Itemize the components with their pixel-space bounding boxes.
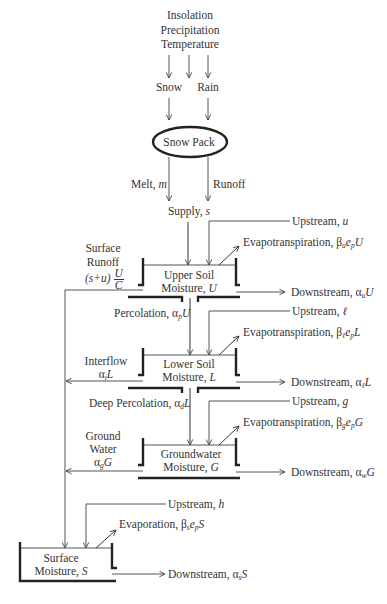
rain-label: Rain	[197, 81, 219, 94]
ground-water-line1: Ground	[85, 430, 120, 443]
percolation-label: Percolation, αpU	[114, 307, 190, 320]
upstream-h-label: Upstream, h	[168, 498, 224, 511]
surface-runoff-line1: Surface	[85, 242, 120, 255]
downstream-u-label: Downstream, αuU	[291, 286, 374, 299]
input-precipitation: Precipitation	[161, 24, 220, 37]
upstream-u-label: Upstream, u	[292, 215, 348, 228]
runoff-label: Runoff	[213, 178, 245, 191]
evapotranspiration-g-label: Evapotranspiration, βgepG	[243, 416, 363, 429]
upstream-g-label: Upstream, g	[292, 395, 348, 408]
lower-soil-line2: Moisture, L	[162, 371, 216, 384]
flow-diagram-lines	[0, 0, 387, 604]
ground-water-line2: Water	[89, 443, 116, 456]
evaporation-s-label: Evaporation, βsepS	[119, 518, 204, 531]
interflow-coeff: αiL	[99, 368, 114, 381]
evapotranspiration-l-label: Evapotranspiration, βℓepL	[243, 326, 361, 339]
ground-water-coeff: αgG	[94, 456, 112, 469]
upper-soil-line2: Moisture, U	[161, 282, 217, 295]
upstream-l-label: Upstream, ℓ	[292, 305, 347, 318]
lower-soil-line1: Lower Soil	[163, 358, 214, 371]
groundwater-line1: Groundwater	[161, 448, 222, 461]
melt-label: Melt, m	[131, 178, 167, 191]
snow-pack-label: Snow Pack	[163, 136, 214, 149]
evapotranspiration-u-label: Evapotranspiration, βuepU	[243, 236, 363, 249]
upper-soil-line1: Upper Soil	[164, 269, 214, 282]
interflow-line1: Interflow	[85, 355, 128, 368]
deep-percolation-label: Deep Percolation, αdL	[89, 397, 190, 410]
input-temperature: Temperature	[161, 38, 219, 51]
surface-runoff-expr: (s+u) UC	[85, 268, 124, 291]
supply-label: Supply, s	[168, 205, 210, 218]
downstream-l-label: Downstream, αℓL	[291, 376, 371, 389]
input-insolation: Insolation	[167, 9, 213, 22]
downstream-g-label: Downstream, αwG	[291, 466, 375, 479]
surface-moisture-line2: Moisture, S	[34, 565, 87, 578]
downstream-s-label: Downstream, αsS	[168, 568, 247, 581]
surface-moisture-line1: Surface	[43, 552, 78, 565]
snow-label: Snow	[156, 81, 182, 94]
groundwater-line2: Moisture, G	[163, 461, 219, 474]
